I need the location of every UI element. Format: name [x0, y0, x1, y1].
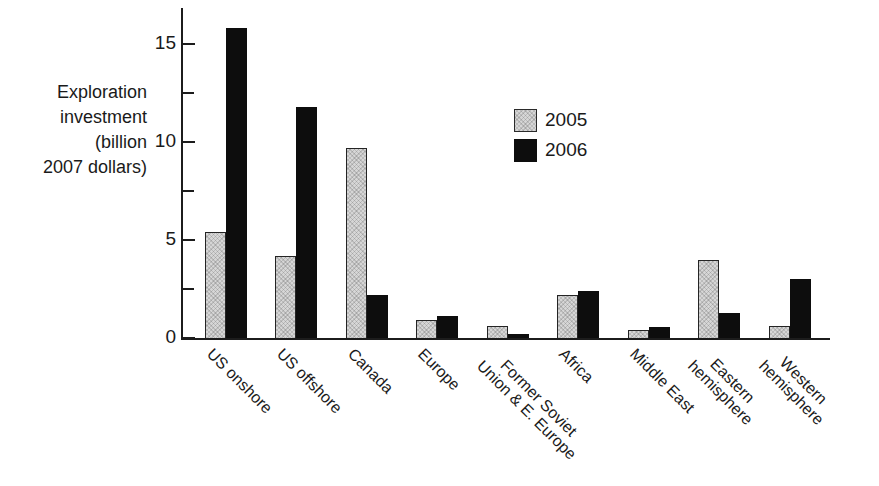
bar-2005-canada — [346, 148, 367, 338]
legend-item-2005: 2005 — [514, 108, 587, 132]
x-tick-label-western-hemisphere: Western hemisphere — [755, 345, 838, 428]
y-tick-0 — [183, 337, 195, 339]
bar-2006-eastern-hemisphere — [719, 313, 740, 338]
y-tick-15 — [183, 43, 195, 45]
bar-2006-africa — [578, 291, 599, 338]
x-tick-label-us-onshore: US onshore — [203, 345, 275, 417]
legend-label-2006: 2006 — [545, 138, 587, 162]
bar-2006-former-soviet-union-e-europe — [508, 334, 529, 338]
bar-2006-canada — [367, 295, 388, 338]
bar-2005-europe — [416, 320, 437, 338]
bar-2005-eastern-hemisphere — [698, 260, 719, 338]
y-tick-minor-7-5 — [183, 190, 194, 192]
y-tick-label-0: 0 — [116, 325, 176, 349]
legend-swatch-2005 — [514, 109, 537, 132]
x-tick-label-us-offshore: US offshore — [274, 345, 346, 417]
figure: Exploration investment (billion 2007 dol… — [0, 0, 879, 486]
bar-2006-europe — [437, 316, 458, 338]
y-tick-minor-2-5 — [183, 288, 194, 290]
bar-2006-western-hemisphere — [790, 279, 811, 338]
x-tick-label-middle-east: Middle East — [626, 345, 697, 416]
x-tick-label-africa: Africa — [556, 345, 597, 386]
bar-2006-us-offshore — [296, 107, 317, 338]
bar-2006-us-onshore — [226, 28, 247, 338]
bar-2005-africa — [557, 295, 578, 338]
y-tick-minor-12-5 — [183, 92, 194, 94]
y-tick-label-5: 5 — [116, 227, 176, 251]
legend-label-2005: 2005 — [545, 108, 587, 132]
x-tick-label-eastern-hemisphere: Eastern hemisphere — [685, 345, 768, 428]
y-tick-label-10: 10 — [116, 129, 176, 153]
bar-2005-us-onshore — [205, 232, 226, 338]
bar-2006-middle-east — [649, 327, 670, 338]
bar-2005-western-hemisphere — [769, 326, 790, 338]
x-axis-line — [181, 338, 830, 340]
legend-item-2006: 2006 — [514, 138, 587, 162]
x-tick-label-europe: Europe — [415, 345, 464, 394]
y-tick-10 — [183, 141, 195, 143]
y-tick-label-15: 15 — [116, 31, 176, 55]
bar-2005-former-soviet-union-e-europe — [487, 326, 508, 338]
y-axis-line — [181, 8, 183, 340]
bar-2005-us-offshore — [275, 256, 296, 338]
x-tick-label-canada: Canada — [344, 345, 396, 397]
legend: 2005 2006 — [514, 108, 587, 168]
y-tick-5 — [183, 239, 195, 241]
plot-area — [181, 8, 830, 338]
legend-swatch-2006 — [514, 139, 537, 162]
bar-2005-middle-east — [628, 330, 649, 338]
